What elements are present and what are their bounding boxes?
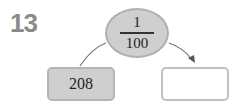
input-box: 208 [47,67,115,101]
fraction-bar [120,32,154,34]
input-connector-line [80,43,106,66]
output-arrow-line [169,43,192,60]
fraction-numerator: 1 [133,15,141,30]
fraction-denominator: 100 [126,36,149,51]
operator-ellipse: 1 100 [105,8,169,58]
answer-box[interactable] [161,67,229,101]
